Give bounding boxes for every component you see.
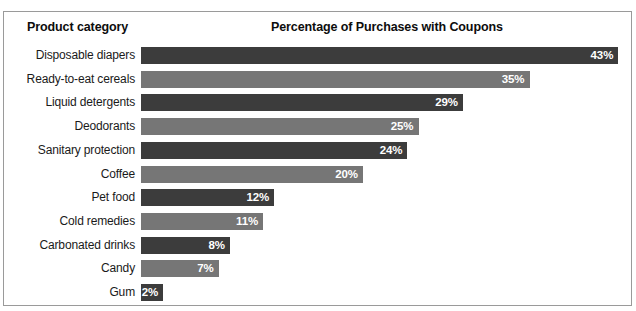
- bar: 11%: [141, 213, 263, 230]
- chart-row: Carbonated drinks8%: [4, 237, 631, 254]
- category-label: Gum: [4, 284, 135, 301]
- bar: 24%: [141, 142, 407, 159]
- category-label: Deodorants: [4, 118, 135, 135]
- bar-value-label: 29%: [435, 94, 458, 111]
- bar-value-label: 11%: [236, 213, 258, 230]
- bar: 12%: [141, 189, 274, 206]
- category-label: Pet food: [4, 189, 135, 206]
- bar-value-label: 25%: [391, 118, 414, 135]
- bar: 29%: [141, 94, 463, 111]
- bar-value-label: 35%: [502, 71, 525, 88]
- bar-value-label: 8%: [208, 237, 224, 254]
- category-label: Sanitary protection: [4, 142, 135, 159]
- category-label: Coffee: [4, 166, 135, 183]
- category-label: Ready-to-eat cereals: [4, 71, 135, 88]
- bar: 2%: [141, 284, 163, 301]
- chart-row: Disposable diapers43%: [4, 47, 631, 64]
- chart-row: Liquid detergents29%: [4, 94, 631, 111]
- bar: 20%: [141, 166, 363, 183]
- bar-value-label: 2%: [142, 284, 158, 301]
- chart-header: Product category Percentage of Purchases…: [4, 12, 631, 44]
- chart-row: Candy7%: [4, 260, 631, 277]
- bar-value-label: 43%: [591, 47, 614, 64]
- bar: 8%: [141, 237, 230, 254]
- category-label: Carbonated drinks: [4, 237, 135, 254]
- bar-value-label: 24%: [380, 142, 403, 159]
- bar-value-label: 7%: [197, 260, 213, 277]
- chart-row: Cold remedies11%: [4, 213, 631, 230]
- chart-row: Gum2%: [4, 284, 631, 301]
- bar: 35%: [141, 71, 530, 88]
- chart-figure: Product category Percentage of Purchases…: [3, 11, 632, 306]
- bar: 7%: [141, 260, 219, 277]
- chart-row: Ready-to-eat cereals35%: [4, 71, 631, 88]
- chart-row: Pet food12%: [4, 189, 631, 206]
- bar: 43%: [141, 47, 618, 64]
- chart-row: Coffee20%: [4, 166, 631, 183]
- column-header-category: Product category: [27, 20, 128, 34]
- category-label: Candy: [4, 260, 135, 277]
- chart-row: Deodorants25%: [4, 118, 631, 135]
- chart-row: Sanitary protection24%: [4, 142, 631, 159]
- bar-value-label: 12%: [246, 189, 269, 206]
- category-label: Disposable diapers: [4, 47, 135, 64]
- bar-value-label: 20%: [335, 166, 358, 183]
- bar: 25%: [141, 118, 419, 135]
- bar-chart-plot-area: Disposable diapers43%Ready-to-eat cereal…: [4, 44, 631, 306]
- category-label: Cold remedies: [4, 213, 135, 230]
- category-label: Liquid detergents: [4, 94, 135, 111]
- column-header-percentage: Percentage of Purchases with Coupons: [144, 20, 636, 34]
